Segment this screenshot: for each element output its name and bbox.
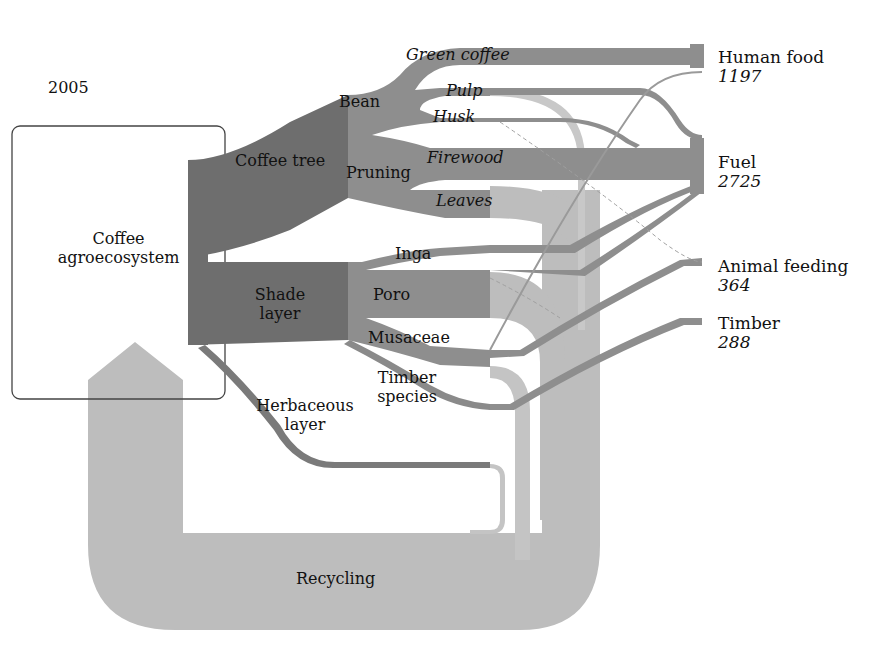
output-name: Fuel <box>718 153 761 172</box>
leaves-label: Leaves <box>436 191 492 210</box>
output-value: 2725 <box>718 172 761 191</box>
herbaceous-line1: Herbaceous <box>250 396 360 415</box>
output-value: 364 <box>718 276 848 295</box>
herbaceous-layer-label: Herbaceous layer <box>250 396 360 434</box>
output-value: 1197 <box>718 67 824 86</box>
herbaceous-line2: layer <box>250 415 360 434</box>
sankey-diagram: 2005 Coffee agroecosystem Coffee tree Sh… <box>0 0 884 648</box>
output-name: Animal feeding <box>718 257 848 276</box>
shade-line2: layer <box>245 304 315 323</box>
source-line1: Coffee <box>12 229 225 248</box>
coffee-tree-label: Coffee tree <box>235 151 325 170</box>
shade-layer-label: Shade layer <box>245 285 315 323</box>
timber-species-line1: Timber <box>372 368 442 387</box>
output-animal-feeding: Animal feeding 364 <box>718 257 848 295</box>
output-timber: Timber 288 <box>718 314 780 352</box>
output-human-food: Human food 1197 <box>718 48 824 86</box>
inga-label: Inga <box>395 244 431 263</box>
timber-species-line2: species <box>372 387 442 406</box>
poro-label: Poro <box>373 285 410 304</box>
output-name: Timber <box>718 314 780 333</box>
output-fuel: Fuel 2725 <box>718 153 761 191</box>
pulp-label: Pulp <box>446 81 482 100</box>
green-coffee-label: Green coffee <box>406 45 510 64</box>
output-name: Human food <box>718 48 824 67</box>
bean-label: Bean <box>339 92 380 111</box>
output-value: 288 <box>718 333 780 352</box>
year-label: 2005 <box>48 78 89 97</box>
pruning-label: Pruning <box>346 163 411 182</box>
firewood-label: Firewood <box>427 148 504 167</box>
husk-label: Husk <box>433 107 475 126</box>
shade-children-flows <box>348 245 490 367</box>
musaceae-label: Musaceae <box>368 328 450 347</box>
recycling-label: Recycling <box>296 569 375 588</box>
shade-line1: Shade <box>245 285 315 304</box>
source-line2: agroecosystem <box>12 248 225 267</box>
source-node-label: Coffee agroecosystem <box>12 229 225 267</box>
timber-species-label: Timber species <box>372 368 442 406</box>
